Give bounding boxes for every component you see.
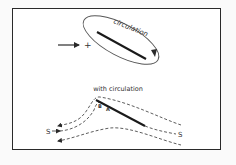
plus-sign: + — [84, 40, 92, 50]
streamline-stagnation-in — [60, 102, 100, 131]
top-panel: + circulation — [58, 6, 166, 74]
streamline-stagnation-out — [145, 126, 176, 134]
point-a-label: A — [106, 106, 110, 112]
flat-plate — [97, 32, 146, 59]
circulation-label: circulation — [112, 17, 149, 38]
bottom-panel-title: with circulation — [93, 85, 143, 93]
inclined-plate — [96, 100, 145, 126]
point-b-label: B — [98, 103, 102, 109]
circulation-arrow-icon — [151, 49, 157, 57]
stagnation-right-label: S — [178, 131, 183, 139]
circulation-diagram: + circulation with circulation B A S S — [0, 0, 236, 165]
stagnation-left-label: S — [46, 128, 51, 136]
streamline-lower — [58, 128, 181, 145]
bottom-panel: with circulation B A S S — [46, 85, 183, 145]
